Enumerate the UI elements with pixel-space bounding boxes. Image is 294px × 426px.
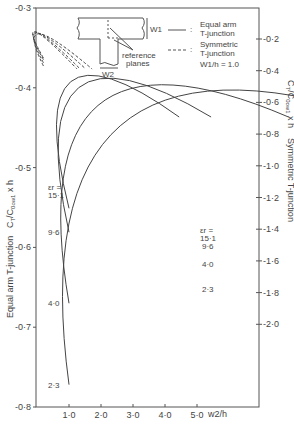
svg-text:9·6: 9·6 — [48, 228, 60, 237]
right-tick-label: -2·0 — [263, 319, 279, 329]
curve-solid — [56, 75, 179, 208]
right-tick-label: -1·0 — [263, 161, 279, 171]
curves — [33, 32, 294, 385]
legend-dashed-2: T-junction — [200, 49, 235, 58]
x-axis: 1·02·03·04·05·0 — [62, 404, 203, 420]
left-axis-title: Equal arm T-junction CT/C0ow1 x h — [5, 180, 16, 318]
x-tick-label: 4·0 — [158, 410, 171, 420]
x-tick-label: 3·0 — [126, 410, 139, 420]
x-tick-label: 2·0 — [94, 410, 107, 420]
svg-text:2·3: 2·3 — [202, 285, 214, 294]
left-axis: -0·3-0·4-0·5-0·6-0·7-0·8 — [15, 3, 36, 412]
left-tick-label: -0·6 — [15, 242, 31, 252]
inset-w1-label: W1 — [150, 25, 163, 34]
right-tick-label: -0·6 — [263, 97, 279, 107]
right-tick-label: -0·4 — [263, 66, 279, 76]
right-axis-title: CT/C0ow1 x h Symmetric T-junction — [285, 80, 294, 222]
left-tick-label: -0·8 — [15, 402, 31, 412]
right-tick-label: -1·2 — [263, 193, 279, 203]
right-tick-label: -1·6 — [263, 256, 279, 266]
legend-solid-1: Equal arm — [200, 20, 237, 29]
chart: -0·3-0·4-0·5-0·6-0·7-0·8 -0·2-0·4-0·6-0·… — [0, 0, 294, 426]
legend-note: W1/h = 1.0 — [200, 60, 239, 69]
right-tick-label: -1·4 — [263, 224, 279, 234]
legend: : Equal arm T-junction : Symmetric T-jun… — [168, 20, 239, 69]
svg-text:15·1: 15·1 — [48, 191, 65, 200]
x-tick-label: 1·0 — [62, 410, 75, 420]
x-tick-label: 5·0 — [190, 410, 203, 420]
left-tick-label: -0·3 — [15, 3, 31, 13]
svg-text::: : — [190, 25, 192, 34]
curve-dashed — [33, 32, 77, 69]
inset-planes-label-2: planes — [126, 59, 150, 68]
right-tick-label: -1·8 — [263, 288, 279, 298]
curve-solid — [61, 85, 289, 304]
left-tick-label: -0·7 — [15, 322, 31, 332]
x-axis-title: w2/h — [207, 409, 227, 419]
left-tick-label: -0·5 — [15, 163, 31, 173]
curve-solid — [58, 78, 211, 232]
legend-solid-2: T-junction — [200, 29, 235, 38]
curve-dashed — [33, 32, 80, 69]
curve-labels: εr =15·19·64·02·3εr =15·19·64·02·3 — [48, 183, 217, 390]
svg-text:2·3: 2·3 — [48, 381, 60, 390]
svg-text:9·6: 9·6 — [202, 242, 214, 251]
svg-text:4·0: 4·0 — [202, 260, 214, 269]
left-tick-label: -0·4 — [15, 83, 31, 93]
legend-dashed-1: Symmetric — [200, 40, 238, 49]
svg-text:4·0: 4·0 — [48, 299, 60, 308]
right-tick-label: -0·8 — [263, 129, 279, 139]
right-tick-label: -0·2 — [263, 34, 279, 44]
svg-text::: : — [190, 45, 192, 54]
